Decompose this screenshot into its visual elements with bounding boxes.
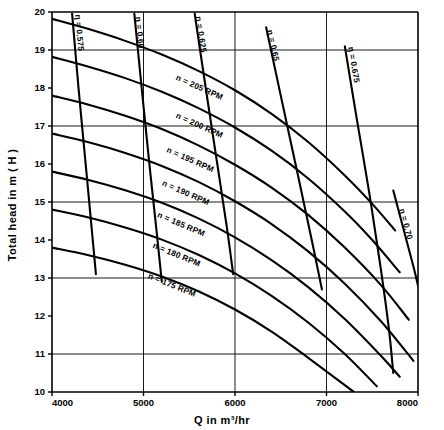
eta-0.65-label: η = 0.65 [265, 29, 281, 62]
y-tick-label-12: 12 [34, 310, 45, 321]
eta-0.65-curve [266, 27, 322, 289]
eta-0.70-label: η = 0.70 [397, 208, 414, 241]
x-axis-title: Q in m³/hr [194, 414, 250, 426]
head-curve-200 [52, 57, 400, 272]
y-tick-label-19: 19 [34, 44, 45, 55]
y-tick-label-13: 13 [34, 272, 45, 283]
x-tick-label-6000: 6000 [224, 397, 245, 408]
y-tick-label-group: 1011121314151617181920 [34, 6, 45, 397]
head-curve-label-185: n = 185 RPM [156, 210, 206, 238]
head-curve-label-175: n = 175 RPM [147, 272, 197, 299]
head-curve-label-group: n = 205 RPMn = 200 RPMn = 195 RPMn = 190… [147, 73, 225, 299]
y-tick-label-18: 18 [34, 82, 45, 93]
y-tick-label-20: 20 [34, 6, 45, 17]
x-tick-label-5000: 5000 [133, 397, 154, 408]
head-curve-195 [52, 96, 409, 320]
x-tick-label-group: 40005000600070008000 [52, 397, 418, 408]
head-curve-label-205: n = 205 RPM [174, 73, 224, 102]
x-tick-label-4000: 4000 [52, 397, 73, 408]
y-tick-label-16: 16 [34, 158, 45, 169]
y-tick-label-14: 14 [34, 234, 45, 245]
pump-performance-chart: 1011121314151617181920 40005000600070008… [0, 0, 444, 430]
x-tick-label-7000: 7000 [316, 397, 337, 408]
y-tick-label-15: 15 [34, 196, 45, 207]
head-curve-label-190: n = 190 RPM [161, 179, 211, 208]
efficiency-curve-group [72, 14, 418, 373]
eta-0.625-label: η = 0.625 [194, 16, 208, 54]
y-tick-label-10: 10 [34, 386, 45, 397]
head-curve-190 [52, 134, 413, 361]
eta-0.675-curve [345, 46, 394, 373]
head-curve-175 [52, 248, 354, 392]
chart-canvas: 1011121314151617181920 40005000600070008… [0, 0, 444, 430]
y-tick-label-11: 11 [35, 348, 46, 359]
y-tick-label-17: 17 [34, 120, 45, 131]
y-axis-title: Total head in m ( H ) [6, 149, 18, 262]
x-tick-label-8000: 8000 [397, 397, 418, 408]
